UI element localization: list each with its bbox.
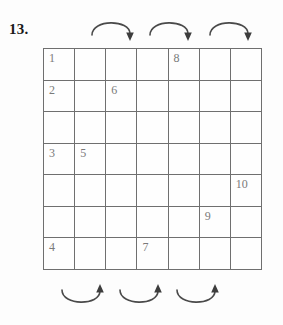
grid-cell[interactable] bbox=[137, 144, 168, 176]
cell-number: 10 bbox=[236, 178, 248, 191]
grid-cell[interactable] bbox=[169, 144, 200, 176]
bottom-arrow-3-icon bbox=[174, 286, 222, 316]
cell-number: 6 bbox=[111, 84, 117, 97]
grid-cell[interactable]: 3 bbox=[44, 144, 75, 176]
grid-cell[interactable] bbox=[169, 175, 200, 207]
grid-cell[interactable] bbox=[231, 112, 262, 144]
top-arrow-1-icon bbox=[89, 16, 137, 46]
grid-cell[interactable] bbox=[106, 207, 137, 239]
puzzle-page: 13. 18263510947 bbox=[0, 0, 283, 325]
grid-cell[interactable] bbox=[169, 112, 200, 144]
cell-number: 4 bbox=[49, 241, 55, 254]
page-title: 13. bbox=[9, 21, 28, 38]
grid-cell[interactable] bbox=[75, 49, 106, 81]
top-arrow-2-icon bbox=[147, 16, 195, 46]
grid-cell[interactable] bbox=[106, 49, 137, 81]
grid-cell[interactable] bbox=[44, 207, 75, 239]
cell-number: 5 bbox=[80, 147, 86, 160]
grid-cell[interactable] bbox=[231, 238, 262, 270]
grid-cell[interactable] bbox=[75, 207, 106, 239]
grid-cell[interactable] bbox=[231, 207, 262, 239]
grid-cell[interactable] bbox=[44, 112, 75, 144]
grid-cell[interactable] bbox=[231, 49, 262, 81]
grid-cell[interactable]: 8 bbox=[169, 49, 200, 81]
grid-cell[interactable] bbox=[169, 238, 200, 270]
grid-cell[interactable] bbox=[137, 49, 168, 81]
cell-number: 2 bbox=[49, 84, 55, 97]
grid-cell[interactable] bbox=[75, 112, 106, 144]
grid-cell[interactable] bbox=[200, 144, 231, 176]
grid-cell[interactable] bbox=[106, 238, 137, 270]
grid-cell[interactable] bbox=[75, 81, 106, 113]
cell-number: 3 bbox=[49, 147, 55, 160]
cell-number: 7 bbox=[142, 241, 148, 254]
grid-cell[interactable] bbox=[200, 238, 231, 270]
grid-cell[interactable] bbox=[137, 81, 168, 113]
cell-number: 1 bbox=[49, 52, 55, 65]
grid-cell[interactable]: 6 bbox=[106, 81, 137, 113]
grid-cell[interactable] bbox=[200, 81, 231, 113]
grid-cell[interactable] bbox=[200, 175, 231, 207]
grid-cell[interactable]: 4 bbox=[44, 238, 75, 270]
grid-cell[interactable] bbox=[137, 207, 168, 239]
grid-cell[interactable] bbox=[106, 112, 137, 144]
grid-cell[interactable] bbox=[44, 175, 75, 207]
grid-cell[interactable] bbox=[137, 112, 168, 144]
top-arrow-3-icon bbox=[207, 16, 255, 46]
bottom-arrow-1-icon bbox=[59, 286, 107, 316]
grid-cell[interactable] bbox=[169, 81, 200, 113]
grid-cell[interactable] bbox=[231, 144, 262, 176]
grid-cell[interactable]: 9 bbox=[200, 207, 231, 239]
grid-cell[interactable] bbox=[106, 175, 137, 207]
grid-cell[interactable] bbox=[75, 175, 106, 207]
puzzle-grid: 18263510947 bbox=[43, 48, 262, 270]
grid-cell[interactable] bbox=[231, 81, 262, 113]
cell-number: 9 bbox=[205, 210, 211, 223]
grid-cell[interactable] bbox=[137, 175, 168, 207]
grid-cell[interactable] bbox=[169, 207, 200, 239]
grid-cell[interactable]: 10 bbox=[231, 175, 262, 207]
grid-cell[interactable] bbox=[75, 238, 106, 270]
grid-cell[interactable] bbox=[200, 112, 231, 144]
grid-cell[interactable]: 7 bbox=[137, 238, 168, 270]
grid-cell[interactable]: 2 bbox=[44, 81, 75, 113]
cell-number: 8 bbox=[174, 52, 180, 65]
grid-cell[interactable] bbox=[106, 144, 137, 176]
grid-cell[interactable]: 1 bbox=[44, 49, 75, 81]
bottom-arrow-2-icon bbox=[117, 286, 165, 316]
grid-cell[interactable]: 5 bbox=[75, 144, 106, 176]
grid-cell[interactable] bbox=[200, 49, 231, 81]
